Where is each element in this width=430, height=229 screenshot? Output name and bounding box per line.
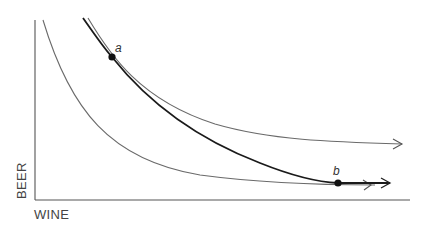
budget-curve bbox=[83, 18, 390, 183]
x-axis-label: WINE bbox=[34, 207, 69, 222]
point-a-label: a bbox=[115, 41, 122, 55]
point-b-label: b bbox=[333, 164, 340, 178]
y-axis-label: BEER bbox=[14, 159, 29, 199]
indifference-diagram bbox=[0, 0, 430, 229]
upper-indifference-curve bbox=[88, 18, 402, 144]
point-b bbox=[334, 179, 341, 186]
lower-indifference-curve bbox=[43, 20, 375, 185]
